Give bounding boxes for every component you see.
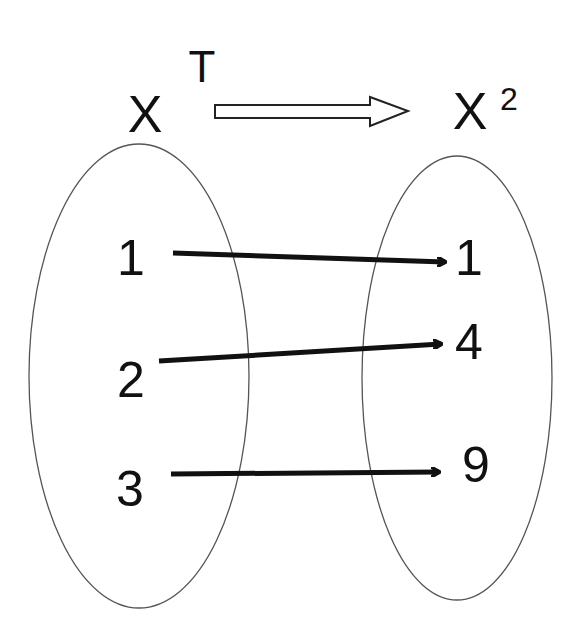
codomain-superscript: 2 — [500, 81, 518, 117]
codomain-element-4: 4 — [455, 314, 483, 370]
transform-label: T — [189, 42, 216, 91]
domain-element-2: 2 — [117, 352, 145, 408]
domain-set-label: X — [128, 85, 163, 143]
transform-arrow-icon — [215, 97, 408, 126]
mapping-arrow-3-to-9 — [171, 472, 439, 474]
mapping-arrow-1-to-1 — [173, 253, 445, 262]
mapping-arrow-2-to-4 — [159, 344, 441, 361]
codomain-set-label: X 2 — [453, 81, 518, 140]
domain-element-1: 1 — [117, 230, 145, 286]
codomain-ellipse — [362, 156, 552, 600]
codomain-set-base: X — [453, 82, 488, 140]
codomain-element-1: 1 — [455, 230, 483, 286]
codomain-element-9: 9 — [462, 437, 490, 493]
mapping-diagram: T X X 2 1 2 3 1 4 9 — [0, 0, 574, 643]
domain-element-3: 3 — [116, 461, 144, 517]
